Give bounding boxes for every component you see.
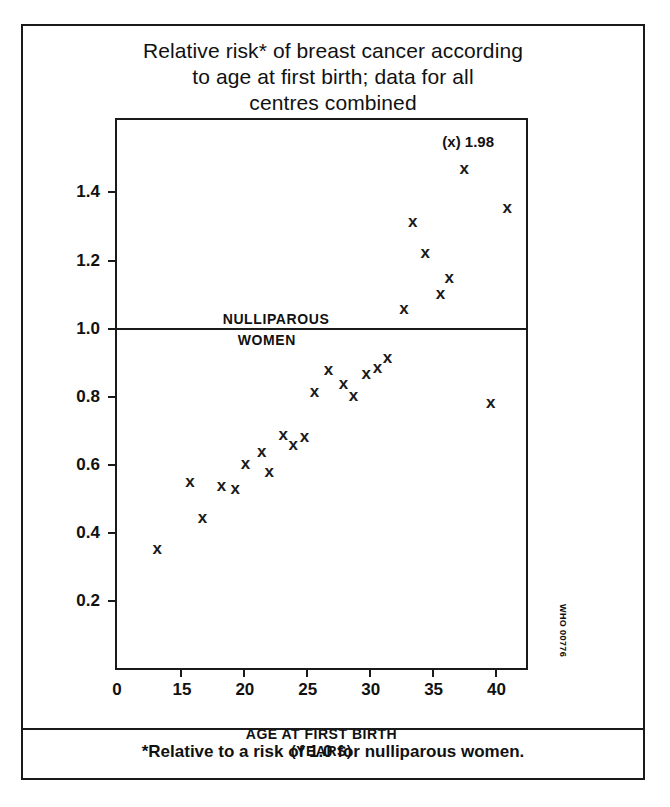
title-line-2: to age at first birth; data for all [23,64,643,90]
y-axis-tick-label: 0.8 [76,387,100,407]
offscale-value-annotation: (x) 1.98 [442,133,494,150]
x-axis-tick: 30 [369,668,371,677]
data-point-marker: x [297,429,313,445]
x-axis-tick-label: 25 [292,680,324,700]
data-point-marker: x [396,301,412,317]
y-axis-tick: 0.8 [108,396,117,398]
x-axis-tick-label: 20 [229,680,261,700]
x-axis-tick: 20 [243,668,245,677]
footnote-divider [23,728,643,730]
y-axis-tick: 1.2 [108,260,117,262]
data-point-marker: x [456,161,472,177]
data-point-marker: x [195,510,211,526]
y-axis-tick-label: 1.2 [76,251,100,271]
x-axis-tick: 40 [495,668,497,677]
x-axis-origin-label: 0 [101,680,133,700]
data-point-marker: x [441,270,457,286]
data-point-marker: x [380,350,396,366]
who-reference-code: WHO 00776 [558,604,568,657]
title-line-3: centres combined [23,90,643,116]
title-line-1: Relative risk* of breast cancer accordin… [23,38,643,64]
x-axis-tick-label: 35 [418,680,450,700]
x-axis-tick: 35 [432,668,434,677]
x-axis-tick-label: 40 [481,680,513,700]
x-axis-tick-label: 30 [355,680,387,700]
data-point-marker: x [149,541,165,557]
footnote: *Relative to a risk of 1.0 for nulliparo… [23,742,643,762]
x-axis-tick: 25 [306,668,308,677]
nulliparous-reference-line [117,328,526,330]
y-axis-tick: 0.6 [108,464,117,466]
data-point-marker: x [182,474,198,490]
data-point-marker: x [432,286,448,302]
figure-frame: Relative risk* of breast cancer accordin… [21,24,645,780]
y-axis-tick: 1.4 [108,191,117,193]
data-point-marker: x [261,464,277,480]
y-axis-tick: 0.4 [108,532,117,534]
data-point-marker: x [237,456,253,472]
y-axis-tick: 1.0 [108,328,117,330]
scatter-plot: NULLIPAROUS WOMEN (x) 1.98 0.20.40.60.81… [115,118,528,670]
y-axis-tick-label: 1.4 [76,182,100,202]
y-axis-tick-label: 1.0 [76,319,100,339]
data-point-marker: x [499,200,515,216]
page-title: Relative risk* of breast cancer accordin… [23,38,643,116]
data-point-marker: x [227,481,243,497]
y-axis-tick-label: 0.4 [76,523,100,543]
reference-label-above: NULLIPAROUS [223,311,330,327]
data-point-marker: x [405,214,421,230]
data-point-marker: x [483,395,499,411]
data-point-marker: x [346,388,362,404]
x-axis-tick: 15 [180,668,182,677]
reference-label-below: WOMEN [238,332,296,348]
y-axis-tick-label: 0.2 [76,591,100,611]
data-point-marker: x [320,362,336,378]
plot-inner: NULLIPAROUS WOMEN (x) 1.98 0.20.40.60.81… [117,120,526,668]
x-axis-tick-label: 15 [166,680,198,700]
data-point-marker: x [417,245,433,261]
data-point-marker: x [307,384,323,400]
data-point-marker: x [254,444,270,460]
y-axis-tick: 0.2 [108,600,117,602]
y-axis-tick-label: 0.6 [76,455,100,475]
